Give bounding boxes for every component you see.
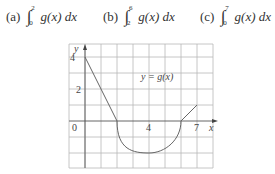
y-tick-4: 4 — [70, 52, 75, 63]
y-tick-2: 2 — [76, 84, 81, 95]
y-axis-arrow-icon — [83, 44, 87, 50]
curve-label: y = g(x) — [140, 71, 174, 83]
graph: y 4 2 0 4 7 x y = g(x) — [0, 0, 275, 174]
origin-label: 0 — [72, 122, 77, 133]
x-axis-label: x — [208, 122, 214, 133]
x-tick-7: 7 — [194, 122, 199, 133]
x-tick-4: 4 — [146, 122, 151, 133]
grid — [69, 44, 213, 168]
